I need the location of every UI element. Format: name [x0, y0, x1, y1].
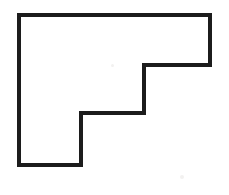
figure-canvas: [0, 0, 229, 195]
staircase-polygon-shape: [19, 15, 210, 165]
staircase-polygon-svg: [0, 0, 229, 195]
